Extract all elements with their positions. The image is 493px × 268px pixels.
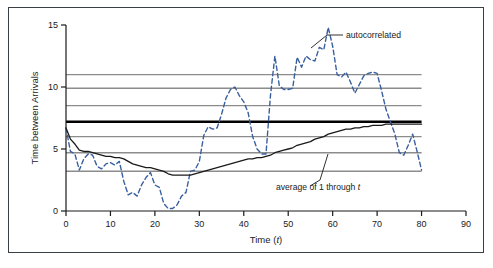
y-tick-label-0: 0 (53, 206, 58, 216)
y-tick-label-15: 15 (48, 20, 58, 30)
annotation-leader-group (310, 35, 343, 186)
x-tick-label-30: 30 (194, 219, 204, 229)
x-tick-group (66, 211, 466, 216)
y-tick-label-5: 5 (53, 144, 58, 154)
x-tick-label-10: 10 (105, 219, 115, 229)
autocorrelated-annotation-label: autocorrelated (346, 30, 401, 40)
y-axis-title: Time between Arrivals (29, 71, 40, 164)
y-tick-label-10: 10 (48, 82, 58, 92)
axes-group (66, 25, 466, 211)
series-autocorrelated (66, 27, 422, 208)
x-tick-label-group: 0102030405060708090 (63, 219, 471, 229)
x-tick-label-90: 90 (461, 219, 471, 229)
average-annotation-label: average of 1 through t (276, 182, 361, 192)
x-tick-label-20: 20 (150, 219, 160, 229)
series-running-average (66, 124, 422, 175)
chart-canvas: 051015 0102030405060708090 Time between … (0, 0, 493, 268)
x-axis-title: Time (t) (250, 234, 282, 245)
figure-container: 051015 0102030405060708090 Time between … (0, 0, 493, 268)
reference-lines-group (66, 75, 422, 172)
x-tick-label-40: 40 (239, 219, 249, 229)
y-tick-label-group: 051015 (48, 20, 58, 216)
y-tick-group (61, 25, 66, 211)
x-tick-label-50: 50 (283, 219, 293, 229)
x-tick-label-0: 0 (63, 219, 68, 229)
x-tick-label-80: 80 (417, 219, 427, 229)
data-series-group (66, 27, 422, 208)
x-tick-label-70: 70 (372, 219, 382, 229)
x-tick-label-60: 60 (328, 219, 338, 229)
